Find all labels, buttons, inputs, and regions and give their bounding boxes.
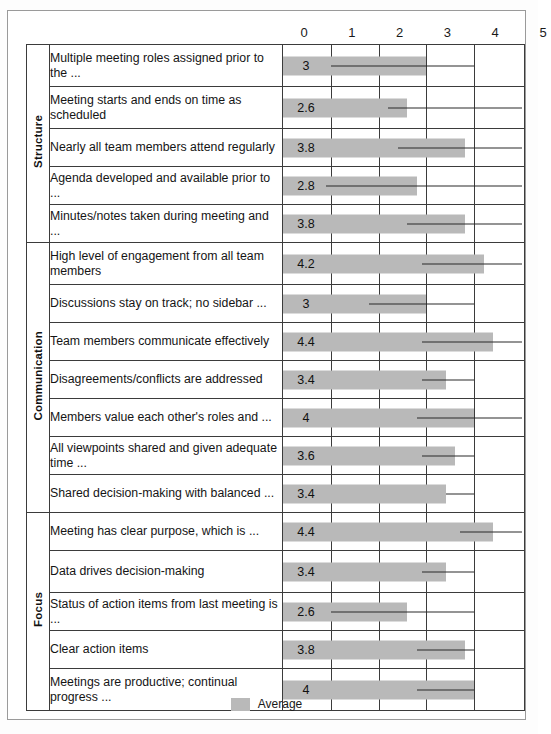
range-line: [460, 531, 522, 532]
bar-wrap: 3.8: [283, 138, 524, 157]
x-axis-tick-5: 5: [533, 25, 551, 41]
plot-area: 3.4: [283, 551, 524, 592]
range-line: [422, 455, 475, 456]
item-label-cell: Meeting starts and ends on time as sched…: [50, 87, 283, 129]
bar-value-label: 4.4: [289, 522, 323, 541]
category-cell-communication: Communication: [27, 243, 50, 513]
range-line: [446, 493, 475, 494]
plot-area: 3.8: [283, 129, 524, 166]
bar-plot-cell: 3.4: [283, 475, 525, 513]
bar-plot-cell: 4.2: [283, 243, 525, 285]
category-label: Communication: [32, 331, 44, 421]
item-label-cell: Agenda developed and available prior to …: [50, 167, 283, 205]
table-row: FocusMeeting has clear purpose, which is…: [27, 513, 525, 551]
plot-area: 3.8: [283, 205, 524, 242]
item-label-cell: Disagreements/conflicts are addressed: [50, 361, 283, 399]
bar-wrap: 4: [283, 408, 524, 427]
bar-wrap: 4.4: [283, 332, 524, 351]
bar-plot-cell: 3.8: [283, 631, 525, 669]
category-cell-focus: Focus: [27, 513, 50, 711]
table-row: Clear action items3.8: [27, 631, 525, 669]
plot-area: 3: [283, 45, 524, 86]
bar-value-label: 2.6: [289, 98, 323, 117]
bar-wrap: 4.4: [283, 522, 524, 541]
category-label: Focus: [32, 592, 44, 627]
bar-plot-cell: 3.4: [283, 361, 525, 399]
plot-area: 4.4: [283, 513, 524, 550]
range-line: [417, 649, 474, 650]
plot-area: 4.4: [283, 323, 524, 360]
bar-wrap: 3.8: [283, 640, 524, 659]
bar-value-label: 3: [289, 56, 323, 75]
chart-legend: Average: [8, 697, 525, 711]
plot-area: 3: [283, 285, 524, 322]
table-row: CommunicationHigh level of engagement fr…: [27, 243, 525, 285]
bar-plot-cell: 3.8: [283, 205, 525, 243]
item-label-cell: Team members communicate effectively: [50, 323, 283, 361]
assessment-chart-table: StructureMultiple meeting roles assigned…: [26, 44, 525, 711]
bar-wrap: 2.8: [283, 176, 524, 195]
range-line: [398, 147, 522, 148]
table-row: Shared decision-making with balanced ...…: [27, 475, 525, 513]
bar-value-label: 2.8: [289, 176, 323, 195]
item-label-cell: Status of action items from last meeting…: [50, 593, 283, 631]
plot-area: 4: [283, 399, 524, 436]
bar-value-label: 4: [289, 408, 323, 427]
plot-area: 2.8: [283, 167, 524, 204]
chart-table-body: StructureMultiple meeting roles assigned…: [27, 45, 525, 711]
table-row: All viewpoints shared and given adequate…: [27, 437, 525, 475]
bar-value-label: 3.8: [289, 640, 323, 659]
bar-wrap: 3.6: [283, 446, 524, 465]
bar-plot-cell: 3.4: [283, 551, 525, 593]
bar-wrap: 3: [283, 294, 524, 313]
bar-wrap: 2.6: [283, 602, 524, 621]
legend-swatch-average: [231, 698, 250, 711]
legend-label-average: Average: [258, 697, 302, 711]
bar-plot-cell: 3: [283, 285, 525, 323]
table-row: Data drives decision-making3.4: [27, 551, 525, 593]
plot-area: 3.4: [283, 361, 524, 398]
range-line: [417, 689, 474, 690]
bar-value-label: 4.4: [289, 332, 323, 351]
range-line: [331, 611, 474, 612]
table-row: StructureMultiple meeting roles assigned…: [27, 45, 525, 87]
bar-plot-cell: 4: [283, 399, 525, 437]
bar-value-label: 3: [289, 294, 323, 313]
x-axis-tick-2: 2: [390, 25, 410, 41]
item-label-cell: Discussions stay on track; no sidebar ..…: [50, 285, 283, 323]
bar-wrap: 3: [283, 56, 524, 75]
plot-area: 2.6: [283, 593, 524, 630]
x-axis-tick-4: 4: [485, 25, 505, 41]
bar-plot-cell: 2.6: [283, 87, 525, 129]
bar-value-label: 2.6: [289, 602, 323, 621]
x-axis-tick-row: 012345: [296, 25, 528, 45]
bar-plot-cell: 2.8: [283, 167, 525, 205]
item-label-cell: Multiple meeting roles assigned prior to…: [50, 45, 283, 87]
range-line: [422, 379, 475, 380]
category-label: Structure: [32, 115, 44, 168]
bar-plot-cell: 4.4: [283, 323, 525, 361]
bar-value-label: 3.4: [289, 562, 323, 581]
bar-plot-cell: 3: [283, 45, 525, 87]
plot-area: 2.6: [283, 87, 524, 128]
x-axis-tick-1: 1: [342, 25, 362, 41]
table-row: Minutes/notes taken during meeting and .…: [27, 205, 525, 243]
category-cell-structure: Structure: [27, 45, 50, 243]
bar-wrap: 4.2: [283, 254, 524, 273]
bar-wrap: 2.6: [283, 98, 524, 117]
table-row: Status of action items from last meeting…: [27, 593, 525, 631]
range-line: [422, 571, 475, 572]
bar-value-label: 4.2: [289, 254, 323, 273]
item-label-cell: Meeting has clear purpose, which is ...: [50, 513, 283, 551]
item-label-cell: Clear action items: [50, 631, 283, 669]
range-line: [407, 223, 522, 224]
range-line: [422, 341, 522, 342]
x-axis-tick-3: 3: [437, 25, 457, 41]
table-row: Nearly all team members attend regularly…: [27, 129, 525, 167]
item-label-cell: Members value each other's roles and ...: [50, 399, 283, 437]
range-line: [417, 417, 522, 418]
table-row: Members value each other's roles and ...…: [27, 399, 525, 437]
x-axis-tick-0: 0: [294, 25, 314, 41]
table-row: Agenda developed and available prior to …: [27, 167, 525, 205]
